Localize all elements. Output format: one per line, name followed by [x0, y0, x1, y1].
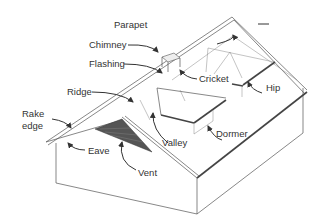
- roof-drawing: Parapet Chimney Flashing Cricket Hip Rid…: [0, 0, 327, 221]
- label-rake-edge-line1: Rake: [22, 108, 44, 119]
- label-flashing: Flashing: [89, 58, 125, 69]
- label-rake-edge-line2: edge: [22, 120, 43, 131]
- front-dormer: [140, 88, 226, 134]
- label-cricket: Cricket: [199, 73, 229, 84]
- main-roof: [46, 17, 307, 178]
- label-chimney: Chimney: [89, 39, 127, 50]
- label-hip: Hip: [266, 82, 280, 93]
- label-parapet: Parapet: [114, 19, 148, 30]
- roof-diagram: Parapet Chimney Flashing Cricket Hip Rid…: [0, 0, 327, 221]
- label-vent: Vent: [138, 167, 157, 178]
- label-eave: Eave: [88, 145, 110, 156]
- label-valley: Valley: [162, 137, 187, 148]
- label-ridge: Ridge: [67, 86, 92, 97]
- label-dormer: Dormer: [216, 128, 248, 139]
